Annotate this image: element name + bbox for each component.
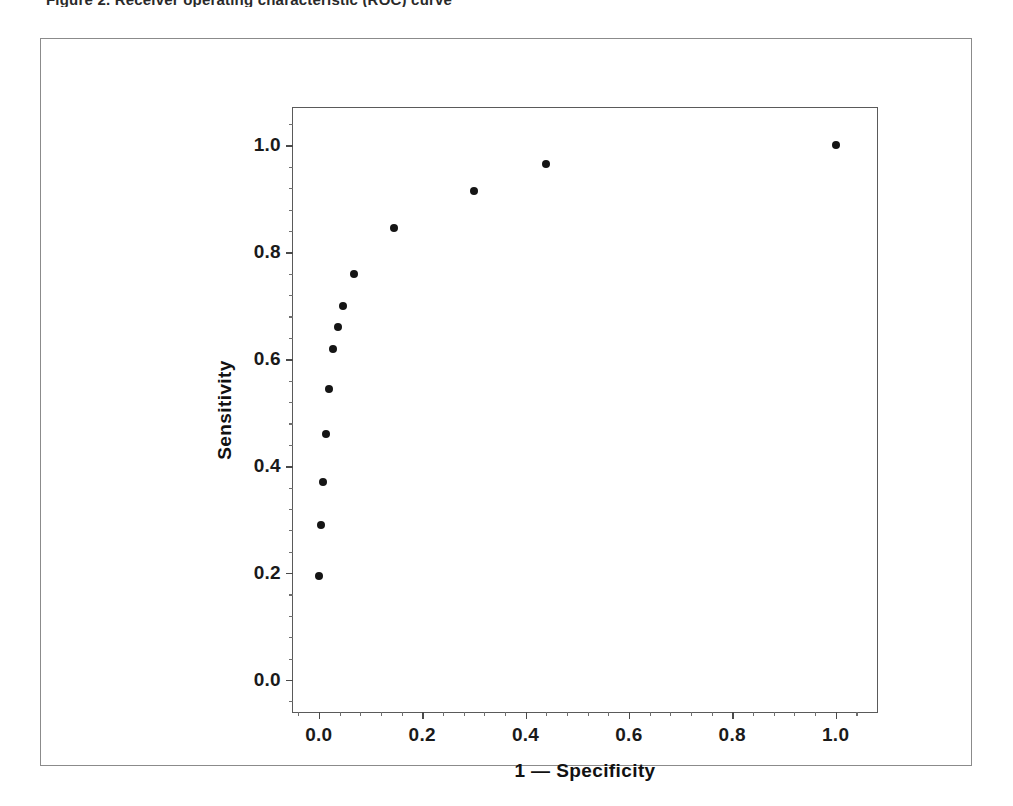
y-tick-label: 0.0 [254, 669, 281, 691]
y-tick-minor [289, 659, 293, 660]
data-point [390, 224, 398, 232]
x-tick-minor [794, 712, 795, 716]
x-tick-label: 0.0 [305, 724, 332, 746]
y-tick-label: 0.6 [254, 348, 281, 370]
y-tick-minor [289, 274, 293, 275]
y-tick-minor [289, 445, 293, 446]
x-tick-minor [753, 712, 754, 716]
y-tick-minor [289, 509, 293, 510]
data-point [319, 478, 327, 486]
x-tick-minor [567, 712, 568, 716]
y-tick-minor [289, 338, 293, 339]
y-tick-minor [289, 295, 293, 296]
data-point [325, 385, 333, 393]
y-tick-major [286, 252, 293, 253]
plot-area: 0.00.20.40.60.81.0 0.00.20.40.60.81.0 1 … [292, 107, 878, 713]
data-point [329, 345, 337, 353]
y-tick-minor [289, 231, 293, 232]
y-tick-major [286, 145, 293, 146]
y-tick-minor [289, 701, 293, 702]
data-point [542, 160, 550, 168]
x-tick-minor [360, 712, 361, 716]
x-tick-label: 0.2 [409, 724, 436, 746]
x-tick-major [422, 712, 423, 719]
y-tick-minor [289, 423, 293, 424]
x-tick-label: 0.4 [512, 724, 539, 746]
x-tick-minor [484, 712, 485, 716]
y-tick-major [286, 466, 293, 467]
y-tick-minor [289, 402, 293, 403]
y-tick-minor [289, 594, 293, 595]
figure-outer-frame: 0.00.20.40.60.81.0 0.00.20.40.60.81.0 1 … [40, 38, 972, 766]
x-tick-minor [546, 712, 547, 716]
y-tick-label: 0.2 [254, 562, 281, 584]
x-tick-minor [588, 712, 589, 716]
y-tick-major [286, 573, 293, 574]
x-axis-title: 1 — Specificity [514, 760, 655, 782]
data-point [339, 302, 347, 310]
x-tick-minor [815, 712, 816, 716]
y-tick-minor [289, 124, 293, 125]
y-tick-minor [289, 188, 293, 189]
x-tick-major [319, 712, 320, 719]
x-tick-minor [402, 712, 403, 716]
x-tick-minor [691, 712, 692, 716]
x-tick-minor [856, 712, 857, 716]
data-point [315, 572, 323, 580]
x-tick-minor [670, 712, 671, 716]
data-point [334, 323, 342, 331]
y-tick-minor [289, 637, 293, 638]
y-tick-major [286, 680, 293, 681]
x-tick-major [836, 712, 837, 719]
y-tick-minor [289, 210, 293, 211]
x-tick-label: 0.6 [615, 724, 642, 746]
y-tick-minor [289, 488, 293, 489]
y-tick-minor [289, 530, 293, 531]
y-tick-label: 0.8 [254, 241, 281, 263]
x-tick-minor [505, 712, 506, 716]
x-tick-label: 0.8 [719, 724, 746, 746]
x-tick-minor [464, 712, 465, 716]
scatter-points-layer [293, 108, 877, 712]
y-tick-minor [289, 167, 293, 168]
y-axis-title: Sensitivity [214, 360, 236, 459]
x-tick-major [732, 712, 733, 719]
y-tick-minor [289, 616, 293, 617]
x-tick-minor [443, 712, 444, 716]
data-point [832, 141, 840, 149]
x-tick-minor [298, 712, 299, 716]
x-tick-label: 1.0 [822, 724, 849, 746]
data-point [317, 521, 325, 529]
data-point [322, 430, 330, 438]
x-tick-minor [774, 712, 775, 716]
y-tick-major [286, 359, 293, 360]
y-tick-label: 1.0 [254, 134, 281, 156]
y-tick-label: 0.4 [254, 455, 281, 477]
clipped-caption-text: Figure 2. Receiver operating characteris… [0, 0, 1013, 7]
x-tick-minor [650, 712, 651, 716]
data-point [470, 187, 478, 195]
x-tick-minor [381, 712, 382, 716]
data-point [350, 270, 358, 278]
x-tick-minor [608, 712, 609, 716]
x-tick-major [629, 712, 630, 719]
y-tick-minor [289, 316, 293, 317]
y-tick-minor [289, 381, 293, 382]
x-tick-major [526, 712, 527, 719]
x-tick-minor [712, 712, 713, 716]
x-tick-minor [340, 712, 341, 716]
y-tick-minor [289, 552, 293, 553]
